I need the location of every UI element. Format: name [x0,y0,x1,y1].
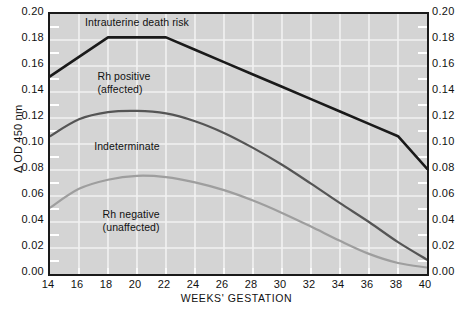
y-tick-label-left: 0.20 [0,6,44,17]
y-tick-label-right: 0.00 [432,266,455,277]
x-tick-label: 26 [208,279,236,290]
x-tick-label: 40 [411,279,439,290]
x-tick-label: 24 [179,279,207,290]
x-axis-title: WEEKS' GESTATION [48,292,425,304]
y-tick-label-left: 0.10 [0,136,44,147]
zone-label-line: Rh positive [97,70,150,83]
zone-label-intrauterine-death-risk: Intrauterine death risk [85,16,189,29]
liley-curve-chart: Δ OD 450 nm 0.000.020.040.060.080.100.12… [0,0,476,309]
zone-label-line: (affected) [97,83,150,96]
y-tick-label-right: 0.08 [432,162,455,173]
y-tick-label-left: 0.00 [0,266,44,277]
x-tick-label: 20 [121,279,149,290]
y-tick-label-left: 0.02 [0,240,44,251]
y-tick-label-right: 0.02 [432,240,455,251]
y-tick-label-right: 0.10 [432,136,455,147]
y-tick-label-right: 0.04 [432,214,455,225]
x-tick-label: 38 [382,279,410,290]
plot-area: Intrauterine death riskRh positive(affec… [48,12,429,276]
y-tick-label-left: 0.06 [0,188,44,199]
zone-label-indeterminate: Indeterminate [94,140,160,153]
y-tick-label-right: 0.20 [432,6,455,17]
x-tick-label: 18 [92,279,120,290]
zone-label-line: Intrauterine death risk [85,16,189,29]
x-tick-label: 28 [237,279,265,290]
x-tick-label: 36 [353,279,381,290]
y-tick-label-left: 0.04 [0,214,44,225]
zone-label-rh-negative-unaffected: Rh negative(unaffected) [103,208,160,234]
y-tick-label-right: 0.18 [432,32,455,43]
y-tick-label-left: 0.14 [0,84,44,95]
x-tick-label: 32 [295,279,323,290]
zone-label-rh-positive-affected: Rh positive(affected) [97,70,150,96]
x-tick-label: 30 [266,279,294,290]
zone-label-line: Indeterminate [94,140,160,153]
x-tick-label: 22 [150,279,178,290]
zone-label-line: Rh negative [103,208,160,221]
x-tick-label: 14 [34,279,62,290]
y-tick-label-left: 0.16 [0,58,44,69]
y-tick-label-left: 0.12 [0,110,44,121]
y-tick-label-right: 0.06 [432,188,455,199]
y-tick-label-right: 0.12 [432,110,455,121]
y-tick-label-right: 0.16 [432,58,455,69]
y-tick-label-right: 0.14 [432,84,455,95]
zone-label-line: (unaffected) [103,221,160,234]
x-tick-label: 34 [324,279,352,290]
y-tick-label-left: 0.08 [0,162,44,173]
x-tick-label: 16 [63,279,91,290]
y-tick-label-left: 0.18 [0,32,44,43]
